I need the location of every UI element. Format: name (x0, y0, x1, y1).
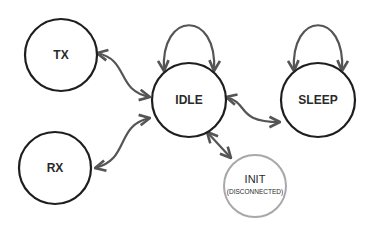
edge-idle-sleep (226, 97, 280, 122)
edge-idle-init (207, 132, 231, 158)
edge-rx-idle (95, 118, 150, 168)
node-init: INIT (DISCONNECTED) (224, 155, 286, 217)
node-init-label: INIT (245, 173, 266, 185)
node-tx: TX (25, 19, 97, 91)
node-rx: RX (19, 132, 91, 204)
state-diagram: TX RX IDLE SLEEP INIT (DISCONNECTED) (0, 0, 373, 234)
node-tx-label: TX (53, 48, 68, 62)
node-init-sublabel: (DISCONNECTED) (227, 188, 283, 196)
edge-tx-idle (97, 53, 150, 97)
node-sleep: SLEEP (281, 63, 355, 137)
node-idle-label: IDLE (175, 93, 202, 107)
node-rx-label: RX (47, 161, 64, 175)
node-sleep-label: SLEEP (298, 93, 337, 107)
node-idle: IDLE (152, 63, 226, 137)
